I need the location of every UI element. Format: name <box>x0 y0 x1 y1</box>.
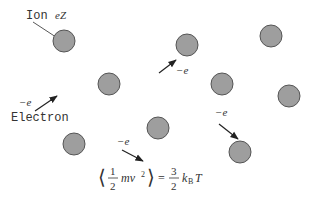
formula-equals: = <box>158 171 165 185</box>
electron-label: Electron <box>11 111 69 125</box>
ion-circle <box>278 85 300 107</box>
ion-circle <box>147 117 169 139</box>
formula-rhs-T: T <box>195 171 203 185</box>
formula-lhs-exponent: 2 <box>141 170 145 179</box>
formula-lhs-denominator: 2 <box>110 180 116 192</box>
ion-circle <box>63 133 85 155</box>
ion-circle <box>229 141 251 163</box>
formula-rhs-denominator: 2 <box>171 180 177 192</box>
ion-label: Ion <box>26 9 48 23</box>
electron-charge-label: −e <box>19 96 31 108</box>
electron-velocity-arrow <box>159 60 176 73</box>
formula-left-angle: ⟨ <box>98 166 106 188</box>
electron-velocity-arrow <box>219 124 238 139</box>
formula-rhs-subscript: B <box>188 177 193 186</box>
electron-velocity-arrow <box>122 150 143 161</box>
plasma-diagram: Ion eZ −e−e−e−e Electron ⟨ 1 2 mv⃗ 2 ⟩ =… <box>0 0 311 197</box>
ion-circle <box>260 25 282 47</box>
electron-charge-label: −e <box>176 64 188 76</box>
energy-formula: ⟨ 1 2 mv⃗ 2 ⟩ = 3 2 k B T <box>98 165 203 192</box>
electron-velocity-arrow <box>35 96 57 111</box>
formula-lhs-numerator: 1 <box>110 165 116 177</box>
formula-rhs-numerator: 3 <box>171 165 177 177</box>
ion-charge-label: eZ <box>55 9 67 21</box>
electron-charge-label: −e <box>215 106 227 118</box>
ion-circle <box>98 73 120 95</box>
ion-circle <box>211 73 233 95</box>
ion-circle <box>176 34 198 56</box>
electron-charge-label: −e <box>117 135 129 147</box>
ion-group <box>53 25 300 163</box>
ion-circle <box>53 30 75 52</box>
formula-right-angle: ⟩ <box>147 166 155 188</box>
